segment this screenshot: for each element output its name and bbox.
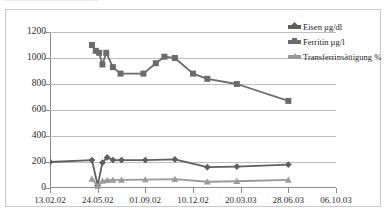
x-axis-tick xyxy=(336,188,337,193)
series-square xyxy=(89,42,291,104)
y-axis-tick-label: 1200 xyxy=(6,27,46,36)
y-axis-tick-label: 400 xyxy=(6,131,46,140)
chart-frame: 020040060080010001200 13.02.0224.05.0201… xyxy=(5,9,381,207)
chart-page: •••••••••••••••••••••••••••••••••••• 020… xyxy=(0,0,387,212)
y-axis-tick-label: 200 xyxy=(6,157,46,166)
legend-label: Eisen µg/dl xyxy=(303,22,342,32)
data-point-marker xyxy=(285,161,292,168)
data-point-marker xyxy=(118,157,125,164)
clipped-header-strip: •••••••••••••••••••••••••••••••••••• xyxy=(0,0,387,8)
data-point-marker xyxy=(190,71,196,77)
x-axis-tick-label: 20.03.03 xyxy=(225,195,257,205)
data-point-marker xyxy=(153,60,159,66)
legend-marker-icon xyxy=(292,38,297,43)
data-point-marker xyxy=(89,42,95,48)
legend-item: Transferrinsättigung % xyxy=(288,52,387,62)
data-point-marker xyxy=(140,71,146,77)
data-point-marker xyxy=(89,157,96,164)
data-point-marker xyxy=(103,50,109,56)
legend-marker-icon xyxy=(291,22,298,29)
chart-legend: Eisen µg/dlFerritin µg/lTransferrinsätti… xyxy=(288,22,387,67)
data-point-marker xyxy=(50,159,53,166)
data-point-marker xyxy=(110,64,116,70)
data-point-marker xyxy=(161,54,167,60)
data-point-marker xyxy=(171,156,178,163)
x-axis-tick-label: 06.10.03 xyxy=(320,195,352,205)
x-axis-tick-label: 28.06.03 xyxy=(273,195,305,205)
legend-item: Ferritin µg/l xyxy=(288,37,387,47)
legend-swatch-triangle-icon xyxy=(288,55,301,59)
legend-item: Eisen µg/dl xyxy=(288,22,387,32)
data-point-marker xyxy=(110,157,117,164)
data-point-marker xyxy=(172,55,178,61)
y-axis-tick-label: 600 xyxy=(6,105,46,114)
data-point-marker xyxy=(233,163,240,170)
x-axis-tick-label: 24.05.02 xyxy=(82,195,114,205)
x-axis-tick-label: 10.12.02 xyxy=(177,195,209,205)
legend-label: Ferritin µg/l xyxy=(303,37,345,47)
x-axis-tick-label: 13.02.02 xyxy=(34,195,66,205)
clipped-header-text: •••••••••••••••••••••••••••••••••••• xyxy=(3,0,98,4)
data-point-marker xyxy=(99,62,105,68)
y-axis-tick-label: 1000 xyxy=(6,53,46,62)
data-point-marker xyxy=(204,76,210,82)
data-point-marker xyxy=(142,157,149,164)
data-point-marker xyxy=(118,71,124,77)
data-point-marker xyxy=(89,176,96,182)
x-axis-tick-label: 01.09.02 xyxy=(130,195,162,205)
data-point-marker xyxy=(285,98,291,104)
legend-label: Transferrinsättigung % xyxy=(303,52,381,62)
data-point-marker xyxy=(204,164,211,171)
y-axis-tick-label: 0 xyxy=(6,183,46,192)
legend-swatch-square-icon xyxy=(288,40,301,44)
data-point-marker xyxy=(234,81,240,87)
y-axis-tick-label: 800 xyxy=(6,79,46,88)
data-point-marker xyxy=(96,50,102,56)
legend-swatch-diamond-icon xyxy=(288,25,301,29)
series-triangle xyxy=(89,176,292,189)
series-diamond xyxy=(50,154,292,189)
legend-marker-icon xyxy=(292,53,298,58)
